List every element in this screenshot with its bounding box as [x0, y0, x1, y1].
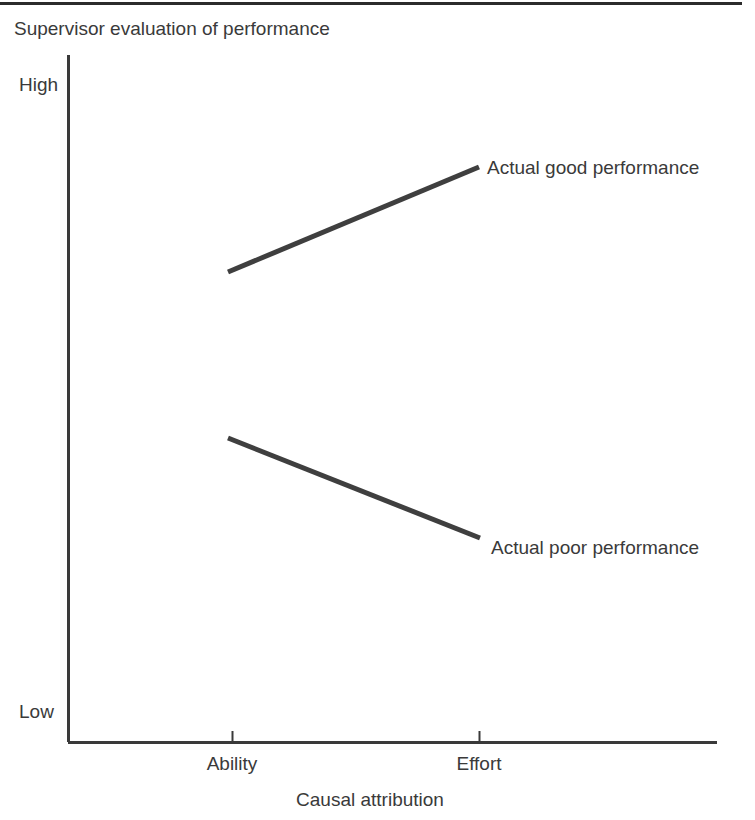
x-tick-label-ability: Ability — [207, 752, 258, 776]
figure-container: Supervisor evaluation of performance Hig… — [0, 0, 755, 820]
plot-area — [0, 0, 755, 820]
x-axis-title: Causal attribution — [296, 788, 444, 812]
x-tick-label-effort: Effort — [456, 752, 501, 776]
series-line-actual-poor-performance — [228, 438, 480, 538]
series-line-actual-good-performance — [228, 167, 479, 272]
series-label-actual-good-performance: Actual good performance — [487, 156, 699, 180]
series-label-actual-poor-performance: Actual poor performance — [491, 536, 699, 560]
